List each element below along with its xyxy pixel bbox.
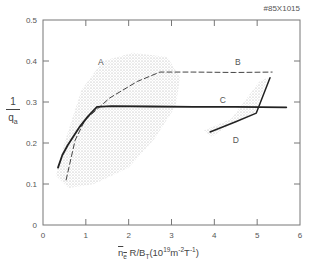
x-label-units-open: (10 xyxy=(149,247,163,258)
x-label-units-close: ) xyxy=(196,247,199,258)
x-tick-label: 6 xyxy=(298,231,303,240)
x-tick-label: 1 xyxy=(84,231,89,240)
series-label-a: A xyxy=(98,57,104,67)
x-tick-label: 2 xyxy=(126,231,131,240)
region-a xyxy=(56,53,180,188)
x-label-n: ne xyxy=(118,247,127,258)
x-tick-label: 5 xyxy=(255,231,260,240)
y-label-sub: a xyxy=(14,118,18,125)
series-label-b: B xyxy=(235,57,241,67)
chart: 012345600.10.20.30.40.5ABCD xyxy=(0,0,312,272)
y-tick-label: 0.2 xyxy=(26,139,38,148)
shot-id-annotation: #85X1015 xyxy=(264,4,300,13)
x-tick-label: 4 xyxy=(212,231,217,240)
y-tick-label: 0 xyxy=(33,221,38,230)
y-label-denominator: qa xyxy=(6,110,20,125)
y-tick-label: 0.5 xyxy=(26,16,38,25)
x-tick-label: 3 xyxy=(169,231,174,240)
y-label-numerator: 1 xyxy=(6,96,20,110)
series-label-c: C xyxy=(220,95,226,105)
y-tick-label: 0.3 xyxy=(26,98,38,107)
y-tick-label: 0.1 xyxy=(26,180,38,189)
x-label-rb: R/B xyxy=(127,247,145,258)
plot-area: 012345600.10.20.30.40.5ABCD xyxy=(0,0,312,272)
y-tick-label: 0.4 xyxy=(26,57,38,66)
x-axis-label: ne R/BT(1019m-2T-1) xyxy=(118,246,199,260)
x-tick-label: 0 xyxy=(41,231,46,240)
y-axis-label: 1 qa xyxy=(6,96,20,125)
series-label-d: D xyxy=(233,135,239,145)
